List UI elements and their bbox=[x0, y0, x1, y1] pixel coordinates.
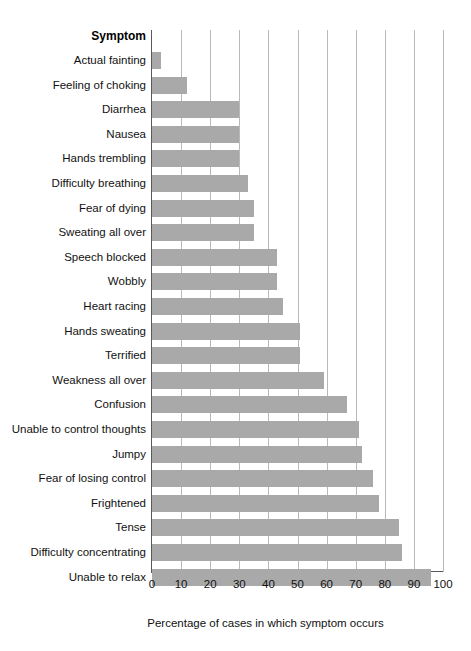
bar-row bbox=[152, 126, 443, 143]
bar bbox=[152, 52, 161, 69]
category-label: Fear of losing control bbox=[0, 472, 146, 485]
bar bbox=[152, 224, 254, 241]
category-label: Confusion bbox=[0, 398, 146, 411]
bar-row bbox=[152, 150, 443, 167]
bar bbox=[152, 470, 373, 487]
category-label: Feeling of choking bbox=[0, 79, 146, 92]
bar bbox=[152, 396, 347, 413]
category-label: Hands sweating bbox=[0, 325, 146, 338]
bar-row bbox=[152, 200, 443, 217]
category-axis-title: Symptom bbox=[0, 29, 146, 43]
category-label: Weakness all over bbox=[0, 374, 146, 387]
bar-row bbox=[152, 495, 443, 512]
category-label: Heart racing bbox=[0, 300, 146, 313]
bar-row bbox=[152, 175, 443, 192]
category-label: Tense bbox=[0, 521, 146, 534]
bar bbox=[152, 495, 379, 512]
bar bbox=[152, 77, 187, 94]
bar-row bbox=[152, 323, 443, 340]
category-label: Frightened bbox=[0, 497, 146, 510]
category-label: Sweating all over bbox=[0, 226, 146, 239]
bar bbox=[152, 298, 283, 315]
bar-chart: Symptom Actual faintingFeeling of chokin… bbox=[0, 0, 471, 651]
gridline bbox=[443, 30, 444, 572]
bar bbox=[152, 175, 248, 192]
bar bbox=[152, 372, 324, 389]
category-label: Actual fainting bbox=[0, 54, 146, 67]
bar bbox=[152, 150, 239, 167]
bar bbox=[152, 323, 300, 340]
category-label: Unable to relax bbox=[0, 571, 146, 584]
bar bbox=[152, 544, 402, 561]
bar bbox=[152, 101, 239, 118]
category-label: Nausea bbox=[0, 128, 146, 141]
category-label: Hands trembling bbox=[0, 152, 146, 165]
category-label: Difficulty breathing bbox=[0, 177, 146, 190]
bar-row bbox=[152, 224, 443, 241]
bar-row bbox=[152, 77, 443, 94]
x-tick-label: 100 bbox=[423, 578, 463, 590]
bar-row bbox=[152, 347, 443, 364]
bar-row bbox=[152, 298, 443, 315]
bar bbox=[152, 421, 359, 438]
bar-row bbox=[152, 446, 443, 463]
bar bbox=[152, 249, 277, 266]
bar bbox=[152, 273, 277, 290]
x-axis-title: Percentage of cases in which symptom occ… bbox=[0, 617, 471, 629]
bar-row bbox=[152, 101, 443, 118]
category-label: Diarrhea bbox=[0, 103, 146, 116]
category-label: Jumpy bbox=[0, 448, 146, 461]
bar-row bbox=[152, 421, 443, 438]
bar-row bbox=[152, 273, 443, 290]
bar bbox=[152, 126, 239, 143]
category-label: Unable to control thoughts bbox=[0, 423, 146, 436]
bar bbox=[152, 347, 300, 364]
bar-row bbox=[152, 470, 443, 487]
plot-area bbox=[152, 30, 443, 572]
category-label: Fear of dying bbox=[0, 202, 146, 215]
bar bbox=[152, 446, 362, 463]
bar-row bbox=[152, 519, 443, 536]
bar-row bbox=[152, 249, 443, 266]
bar-row bbox=[152, 396, 443, 413]
category-label: Terrified bbox=[0, 349, 146, 362]
category-label: Speech blocked bbox=[0, 251, 146, 264]
category-label: Wobbly bbox=[0, 275, 146, 288]
bar-row bbox=[152, 52, 443, 69]
bar-row bbox=[152, 544, 443, 561]
bar-row bbox=[152, 372, 443, 389]
category-label: Difficulty concentrating bbox=[0, 546, 146, 559]
bar bbox=[152, 200, 254, 217]
bar bbox=[152, 519, 399, 536]
